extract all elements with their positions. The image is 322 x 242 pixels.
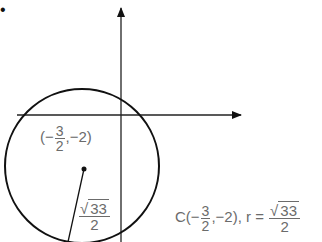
center-frac-den: 2	[55, 139, 65, 153]
sqrt-icon: √	[80, 200, 88, 217]
center-label-open: (−	[40, 128, 54, 145]
caption-mid: ,−2), r =	[211, 208, 264, 225]
radius-label: √33 2	[78, 201, 111, 232]
sqrt-icon: √	[270, 202, 278, 219]
center-label-fraction: 32	[55, 124, 65, 153]
bullet-marker: •	[0, 2, 6, 18]
caption-frac-num: 3	[201, 204, 211, 219]
caption-radius-num: √33	[269, 203, 300, 219]
caption-radius-fraction: √33 2	[269, 203, 300, 234]
center-label-rest: ,−2)	[66, 128, 92, 145]
center-frac-num: 3	[55, 124, 65, 139]
radius-den: 2	[89, 217, 99, 232]
caption-prefix: C(−	[175, 208, 200, 225]
center-label: (−32,−2)	[40, 124, 92, 153]
radius-fraction: √33 2	[79, 201, 110, 232]
radius-radicand: 33	[88, 199, 109, 217]
caption: C(−32,−2), r = √33 2	[175, 203, 301, 234]
radius-num: √33	[79, 201, 110, 217]
caption-radius-den: 2	[279, 219, 289, 234]
caption-fraction: 32	[201, 204, 211, 233]
caption-frac-den: 2	[201, 219, 211, 233]
caption-radicand: 33	[278, 201, 299, 219]
